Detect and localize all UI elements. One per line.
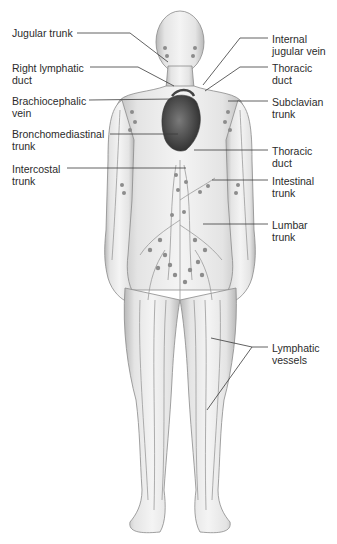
label-thoracic-duct-upper: Thoracic duct — [272, 62, 312, 86]
neck — [166, 66, 194, 88]
label-right-lymphatic-duct: Right lymphatic duct — [12, 62, 84, 86]
right-leg — [124, 288, 180, 533]
label-intestinal-trunk: Intestinal trunk — [272, 175, 314, 199]
label-thoracic-duct-lower: Thoracic duct — [272, 145, 312, 169]
label-subclavian-trunk: Subclavian trunk — [272, 96, 323, 120]
label-bronchomediastinal-trunk: Bronchomediastinal trunk — [12, 128, 104, 152]
label-lymphatic-vessels: Lymphatic vessels — [272, 342, 319, 366]
label-jugular-trunk: Jugular trunk — [12, 27, 73, 39]
label-intercostal-trunk: Intercostal trunk — [12, 163, 60, 187]
head — [156, 11, 204, 73]
label-internal-jugular-vein: Internal jugular vein — [272, 33, 326, 57]
label-brachiocephalic-vein: Brachiocephalic vein — [12, 95, 86, 119]
label-lumbar-trunk: Lumbar trunk — [272, 219, 308, 243]
left-leg — [180, 288, 236, 533]
